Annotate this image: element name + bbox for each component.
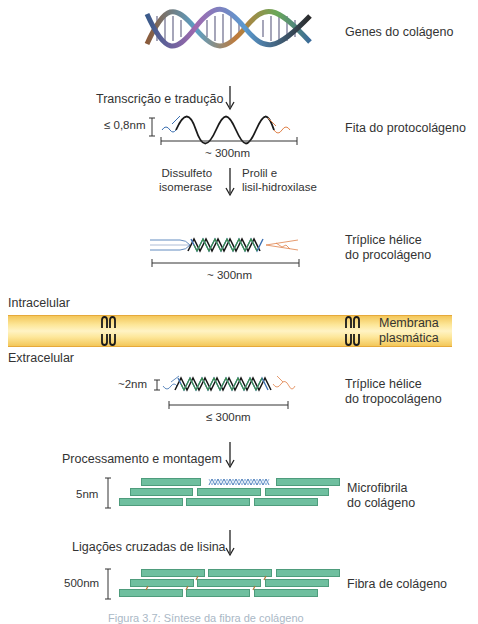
- enzyme-left-line1: Dissulfeto: [159, 166, 212, 180]
- width-bracket-icon: [148, 117, 156, 137]
- procollagen-length-label: ~ 300nm: [207, 268, 252, 282]
- crosslinks-step-label: Ligações cruzadas de lisina: [72, 540, 226, 555]
- enzyme-right-label: Prolil e lisil-hidroxilase: [242, 166, 317, 194]
- membrane-label: Membrana plasmática: [379, 316, 439, 346]
- height-bracket-icon: [104, 477, 112, 509]
- tropocollagen-triple-helix-icon: [163, 374, 299, 396]
- protocollagen-label: Fita do protocolágeno: [345, 121, 466, 136]
- tropocollagen-rod: [130, 488, 193, 496]
- intracellular-label: Intracelular: [8, 296, 70, 311]
- transcription-step-label: Transcrição e tradução: [96, 92, 223, 107]
- tropocollagen-rod: [141, 478, 201, 486]
- length-scale-bar: [168, 401, 290, 409]
- dna-helix-icon: [145, 8, 315, 48]
- membrane-pore-icon: [100, 316, 116, 346]
- procollagen-triple-helix-icon: [150, 235, 300, 255]
- tropocollagen-rod: [265, 488, 329, 496]
- figure-caption: Figura 3.7: Síntese da fibra de colágeno: [108, 612, 304, 624]
- membrane-label-line1: Membrana: [379, 316, 439, 331]
- tropocollagen-width-label: ~2nm: [118, 377, 147, 391]
- genes-label: Genes do colágeno: [345, 25, 453, 40]
- tropocollagen-label: Tríplice hélice do tropocolágeno: [345, 377, 442, 407]
- arrow-down-icon: [225, 442, 235, 468]
- procollagen-label: Tríplice hélice do procolágeno: [345, 233, 431, 263]
- protocollagen-width-label: ≤ 0,8nm: [104, 118, 145, 132]
- tropocollagen-rod: [276, 478, 340, 486]
- enzyme-right-line2: lisil-hidroxilase: [242, 180, 317, 194]
- lysine-crosslink-icon: [140, 575, 280, 591]
- fiber-label: Fibra de colágeno: [347, 577, 447, 592]
- height-bracket-icon: [104, 568, 112, 600]
- extracellular-label: Extracelular: [8, 351, 74, 366]
- microfibril-height-label: 5nm: [76, 487, 98, 501]
- tropocollagen-length-label: ≤ 300nm: [206, 410, 251, 424]
- tropocollagen-rod: [119, 498, 183, 506]
- arrow-down-icon: [225, 86, 235, 110]
- protocollagen-length-label: ~ 300nm: [205, 146, 250, 160]
- length-scale-bar: [160, 137, 298, 145]
- procollagen-label-line1: Tríplice hélice: [345, 233, 431, 248]
- fiber-height-label: 500nm: [64, 576, 99, 590]
- enzyme-left-label: Dissulfeto isomerase: [159, 166, 212, 194]
- microfibril-label-line1: Microfibrila: [347, 481, 415, 496]
- procollagen-label-line2: do procolágeno: [345, 248, 431, 263]
- microfibril-label-line2: do colágeno: [347, 496, 415, 511]
- tropocollagen-rod: [186, 498, 250, 506]
- membrane-label-line2: plasmática: [379, 331, 439, 346]
- length-scale-bar: [151, 259, 301, 267]
- tropocollagen-rod: [276, 569, 340, 577]
- microfibril-label: Microfibrila do colágeno: [347, 481, 415, 511]
- tropocollagen-label-line1: Tríplice hélice: [345, 377, 442, 392]
- arrow-down-icon: [225, 530, 235, 556]
- membrane-pore-icon: [344, 316, 360, 346]
- enzyme-left-line2: isomerase: [159, 180, 212, 194]
- tropocollagen-rod: [197, 488, 261, 496]
- tropocollagen-label-line2: do tropocolágeno: [345, 392, 442, 407]
- tropocollagen-helix-icon: [209, 478, 273, 486]
- width-bracket-icon: [153, 379, 161, 391]
- arrow-down-icon: [225, 168, 235, 196]
- tropocollagen-rod: [254, 498, 318, 506]
- enzyme-right-line1: Prolil e: [242, 166, 317, 180]
- processing-step-label: Processamento e montagem: [62, 452, 222, 467]
